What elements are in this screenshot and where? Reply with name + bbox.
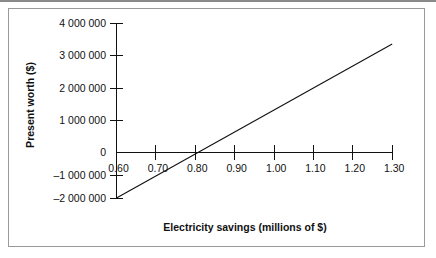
y-tick-label-neg1000000: –1 000 000 xyxy=(53,169,106,181)
x-axis-title: Electricity savings (millions of $) xyxy=(163,221,326,233)
x-tick-label-1-10: 1.10 xyxy=(305,162,326,174)
x-tick-label-0-60: 0.60 xyxy=(108,162,129,174)
x-tick-label-0-70: 0.70 xyxy=(148,162,169,174)
y-axis-title: Present worth ($) xyxy=(24,62,36,148)
y-tick-label-2000000: 2 000 000 xyxy=(59,82,106,94)
y-tick-label-1000000: 1 000 000 xyxy=(59,114,106,126)
y-tick-label-3000000: 3 000 000 xyxy=(59,49,106,61)
y-tick-label-0: 0 xyxy=(100,146,106,158)
y-tick-label-4000000: 4 000 000 xyxy=(59,17,106,29)
x-tick-labels: 0.60 0.70 0.80 0.90 1.00 1.10 1.20 1.30 xyxy=(108,162,404,174)
data-line-present-worth xyxy=(117,44,393,198)
y-tick-label-neg2000000: –2 000 000 xyxy=(53,192,106,204)
x-tick-label-0-80: 0.80 xyxy=(187,162,208,174)
chart-plot-area: 4 000 000 3 000 000 2 000 000 1 000 000 … xyxy=(0,0,436,258)
chart-svg: 4 000 000 3 000 000 2 000 000 1 000 000 … xyxy=(0,0,436,258)
x-tick-label-1-30: 1.30 xyxy=(384,162,405,174)
y-tick-labels: 4 000 000 3 000 000 2 000 000 1 000 000 … xyxy=(53,17,106,204)
x-tick-label-0-90: 0.90 xyxy=(226,162,247,174)
x-tick-label-1-20: 1.20 xyxy=(345,162,366,174)
x-tick-label-1-00: 1.00 xyxy=(266,162,287,174)
